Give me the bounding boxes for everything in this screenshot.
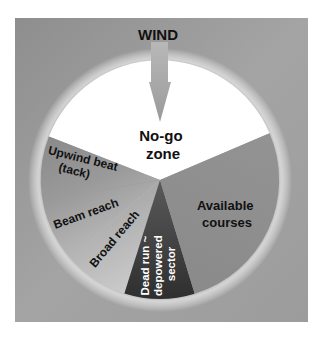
diagram-frame: WIND No-go zone Upwind beat (tack) Beam … <box>15 18 308 322</box>
points-of-sail-diagram: WIND No-go zone Upwind beat (tack) Beam … <box>0 0 325 340</box>
no-go-label: No-go zone <box>139 127 187 162</box>
wind-label: WIND <box>138 26 178 43</box>
